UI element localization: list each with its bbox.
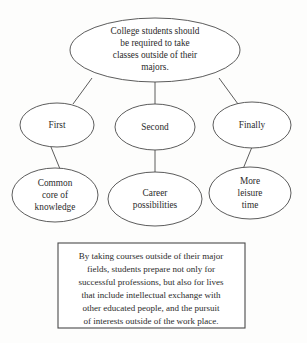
thesis-line-1: College students should: [111, 26, 200, 36]
summary-line-6: of interests outside of the work place.: [83, 316, 218, 326]
step-second-label: Second: [141, 122, 169, 132]
thesis-line-2: be required to take: [120, 38, 189, 48]
detail-leisure-line-2: leisure: [238, 188, 263, 198]
connector-root-to-finally: [219, 78, 238, 104]
connector-root-to-first: [73, 78, 92, 104]
thesis-line-3: classes outside of their: [113, 50, 198, 60]
detail-career-ellipse: [108, 172, 202, 226]
detail-common-core-line-2: core of: [42, 190, 69, 200]
thesis-line-4: majors.: [141, 62, 169, 72]
step-first-label: First: [48, 120, 65, 130]
idea-map-diagram: College students should be required to t…: [0, 0, 307, 343]
detail-common-core-line-1: Common: [38, 178, 73, 188]
summary-line-5: other educated people, and the pursuit: [83, 303, 220, 313]
detail-career-line-1: Career: [143, 188, 169, 198]
diagram-canvas: College students should be required to t…: [0, 0, 307, 343]
summary-line-4: that include intellectual exchange with: [82, 290, 221, 300]
step-finally-label: Finally: [239, 120, 266, 130]
detail-leisure-line-1: More: [240, 176, 260, 186]
summary-line-1: By taking courses outside of their major: [79, 251, 223, 261]
connector-finally-to-leisure: [243, 147, 252, 169]
connector-first-to-common-core: [51, 147, 60, 169]
detail-career-line-2: possibilities: [133, 200, 178, 210]
detail-common-core-line-3: knowledge: [35, 202, 76, 212]
summary-line-2: fields, students prepare not only for: [87, 264, 215, 274]
detail-leisure-line-3: time: [242, 200, 259, 210]
summary-line-3: successful professions, but also for liv…: [79, 277, 224, 287]
